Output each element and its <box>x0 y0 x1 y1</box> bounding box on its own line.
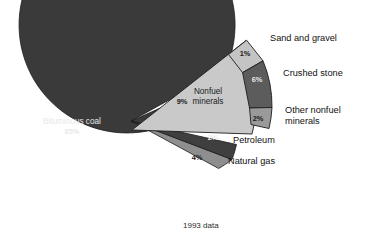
label-bituminous-coal: Bituminous coal <box>43 117 101 126</box>
callout-other-nonfuel-minerals-line2: minerals <box>285 116 320 126</box>
callout-crushed-stone: Crushed stone <box>283 68 343 78</box>
callout-natural-gas: Natural gas <box>228 156 275 166</box>
pie-chart-canvas: Bituminous coal 85% Nonfuel minerals 9% … <box>0 0 372 249</box>
label-other-nonfuel-minerals-pct: 2% <box>253 114 264 123</box>
label-natural-gas-pct: 4% <box>192 153 203 162</box>
chart-caption: 1993 data <box>183 221 219 230</box>
label-sand-and-gravel-pct: 1% <box>240 49 251 58</box>
label-crushed-stone-pct: 6% <box>252 75 263 84</box>
callout-petroleum: Petroleum <box>233 135 275 145</box>
label-nonfuel-minerals-line1: Nonfuel <box>194 87 222 96</box>
callout-sand-and-gravel: Sand and gravel <box>270 33 337 43</box>
callout-other-nonfuel-minerals-line1: Other nonfuel <box>285 105 341 115</box>
label-petroleum-pct: 2% <box>208 133 219 142</box>
label-nonfuel-minerals-pct: 9% <box>177 97 188 106</box>
pie-chart-figure: Bituminous coal 85% Nonfuel minerals 9% … <box>0 0 372 249</box>
label-bituminous-coal-pct: 85% <box>65 127 80 136</box>
label-nonfuel-minerals-line2: minerals <box>193 97 224 106</box>
